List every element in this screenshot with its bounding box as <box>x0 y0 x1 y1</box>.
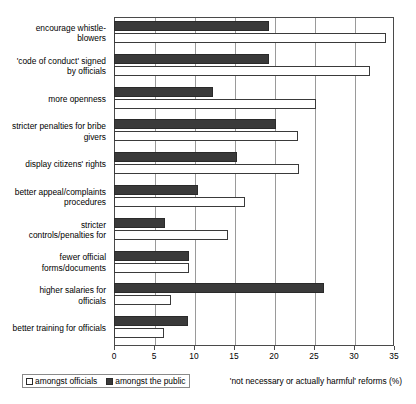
bar-group <box>114 83 394 116</box>
bar-public <box>114 119 276 129</box>
x-axis-title: 'not necessary or actually harmful' refo… <box>230 376 402 386</box>
x-tick <box>354 346 355 350</box>
x-tick <box>314 346 315 350</box>
bar-group <box>114 50 394 83</box>
bar-group <box>114 17 394 50</box>
bar-group <box>114 279 394 312</box>
y-axis-label: encourage whistle- blowers <box>0 17 110 50</box>
bar-officials <box>114 99 316 109</box>
y-axis-label: 'code of conduct' signed by officials <box>0 50 110 83</box>
bar-public <box>114 152 237 162</box>
y-axis-label: stricter controls/penalties for <box>0 214 110 247</box>
x-tick <box>114 346 115 350</box>
y-axis-label: display citizens' rights <box>0 148 110 181</box>
x-tick-label: 0 <box>112 351 117 361</box>
legend-item: amongst the public <box>106 376 185 386</box>
bar-public <box>114 283 324 293</box>
bar-group <box>114 214 394 247</box>
x-tick-label: 10 <box>189 351 198 361</box>
x-tick-label: 5 <box>152 351 157 361</box>
legend-item: amongst officials <box>26 376 97 386</box>
bar-officials <box>114 295 171 305</box>
bar-public <box>114 218 165 228</box>
bar-group <box>114 312 394 345</box>
bar-officials <box>114 263 189 273</box>
y-axis-label: better training for officials <box>0 312 110 345</box>
bar-group <box>114 148 394 181</box>
x-tick-label: 15 <box>229 351 238 361</box>
x-tick <box>274 346 275 350</box>
y-axis-label: higher salaries for officials <box>0 279 110 312</box>
bar-officials <box>114 33 386 43</box>
y-axis-label: more openness <box>0 83 110 116</box>
x-axis-tick-labels: 05101520253035 <box>0 351 416 363</box>
x-tick <box>394 346 395 350</box>
legend-swatch-officials-icon <box>26 378 33 385</box>
bar-officials <box>114 66 370 76</box>
bar-public <box>114 316 188 326</box>
chart-legend: amongst officialsamongst the public <box>22 374 190 388</box>
bar-public <box>114 54 269 64</box>
legend-swatch-public-icon <box>106 378 113 385</box>
x-tick-label: 20 <box>269 351 278 361</box>
bar-officials <box>114 164 299 174</box>
x-tick <box>194 346 195 350</box>
bar-officials <box>114 230 228 240</box>
y-axis-label: fewer official forms/documents <box>0 247 110 280</box>
bar-public <box>114 251 189 261</box>
x-tick-label: 35 <box>389 351 398 361</box>
bar-public <box>114 185 198 195</box>
bar-officials <box>114 197 245 207</box>
legend-label: amongst the public <box>115 376 185 386</box>
bar-officials <box>114 131 298 141</box>
y-axis-label: better appeal/complaints procedures <box>0 181 110 214</box>
bar-public <box>114 87 213 97</box>
legend-label: amongst officials <box>35 376 97 386</box>
x-tick <box>234 346 235 350</box>
bar-group <box>114 115 394 148</box>
bar-chart: encourage whistle- blowers'code of condu… <box>0 0 416 404</box>
bar-officials <box>114 328 164 338</box>
bar-group <box>114 181 394 214</box>
bar-group <box>114 247 394 280</box>
x-tick <box>154 346 155 350</box>
y-axis-labels: encourage whistle- blowers'code of condu… <box>0 17 110 345</box>
y-axis-label: stricter penalties for bribe givers <box>0 115 110 148</box>
x-tick-label: 30 <box>349 351 358 361</box>
x-tick-label: 25 <box>309 351 318 361</box>
bar-public <box>114 21 269 31</box>
bars-container <box>114 17 394 345</box>
